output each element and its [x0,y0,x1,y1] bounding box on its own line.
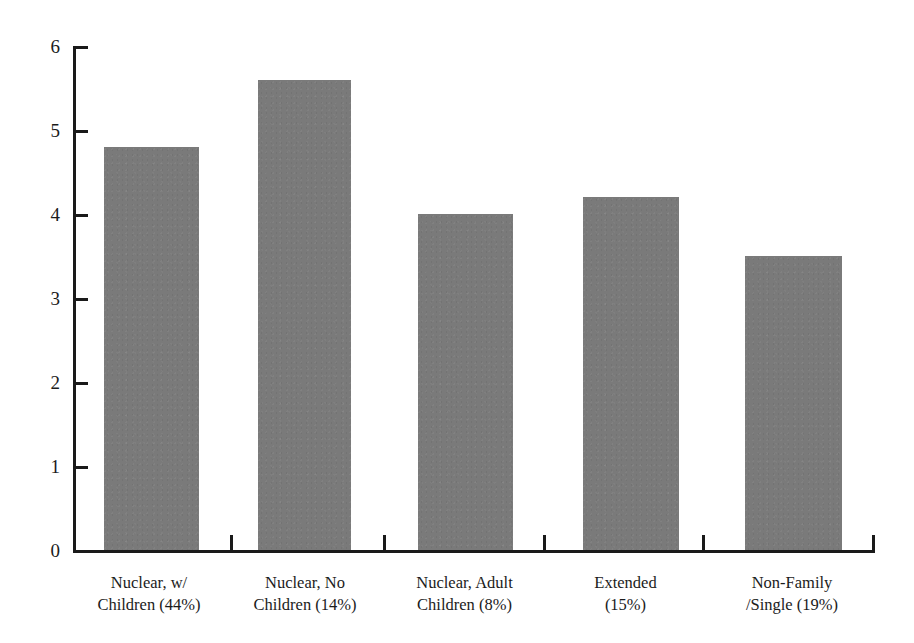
y-axis-tick-6 [76,46,88,49]
category-label-line1: Nuclear, No [265,573,345,592]
x-axis-category-label-0: Nuclear, w/ Children (44%) [69,572,229,616]
x-axis-category-label-1: Nuclear, No Children (14%) [225,572,385,616]
category-label-line1: Extended [594,573,656,592]
category-label-line1: Non-Family [752,573,833,592]
y-axis-label-2: 2 [20,373,60,392]
x-axis-tick-2 [383,535,386,550]
y-axis-tick-3 [76,298,88,301]
y-axis-tick-2 [76,382,88,385]
category-label-line2: Children (14%) [225,594,385,616]
x-axis-tick-4 [702,535,705,550]
bar-nuclear-adult-children [418,214,513,550]
x-axis-tick-1 [230,535,233,550]
y-axis-label-4: 4 [20,205,60,224]
bar-nuclear-with-children [104,147,199,550]
category-label-line2: /Single (19%) [712,594,872,616]
bar-extended [583,197,679,550]
category-label-line2: (15%) [548,594,703,616]
bar-nuclear-no-children [258,80,351,550]
bar-chart: 6 5 4 3 2 1 0 Nuclear, w/ Children (44%)… [0,0,914,643]
x-axis-tick-3 [543,535,546,550]
y-axis-label-3: 3 [20,289,60,308]
y-axis-tick-4 [76,214,88,217]
y-axis-label-0: 0 [20,541,60,560]
y-axis-label-1: 1 [20,457,60,476]
category-label-line2: Children (8%) [383,594,546,616]
x-axis-tick-5 [872,535,875,550]
bar-non-family-single [745,256,842,550]
x-axis-category-label-2: Nuclear, Adult Children (8%) [383,572,546,616]
y-axis-tick-5 [76,130,88,133]
category-label-line1: Nuclear, Adult [416,573,512,592]
y-axis-tick-1 [76,466,88,469]
x-axis-line [73,550,875,553]
category-label-line1: Nuclear, w/ [111,573,187,592]
y-axis-label-6: 6 [20,37,60,56]
x-axis-category-label-3: Extended (15%) [548,572,703,616]
category-label-line2: Children (44%) [69,594,229,616]
y-axis-label-5: 5 [20,121,60,140]
x-axis-category-label-4: Non-Family /Single (19%) [712,572,872,616]
